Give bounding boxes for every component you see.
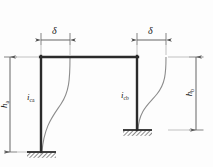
label-stiffness-right-subscript: cb [124,95,129,101]
label-stiffness-left-column: ica [27,93,35,102]
label-height-left: ha [0,101,9,108]
label-delta-left: δ [52,26,57,36]
support-left-hatching [27,153,56,158]
structural-frame-diagram: δ δ ica icb ha hb [0,0,213,167]
label-delta-right: δ [148,26,153,36]
label-stiffness-right-column: icb [121,91,129,100]
deflection-curve-left-column [42,57,70,152]
deflection-curves [42,57,166,152]
frame-drawing-svg [0,0,213,167]
support-right-fixed [123,130,152,136]
frame-members [40,56,138,152]
label-stiffness-left-subscript: ca [30,97,35,103]
deflection-curve-right-column [138,57,166,130]
support-right-hatching [123,131,152,136]
support-left-fixed [27,152,56,158]
label-height-right: hb [185,89,194,96]
